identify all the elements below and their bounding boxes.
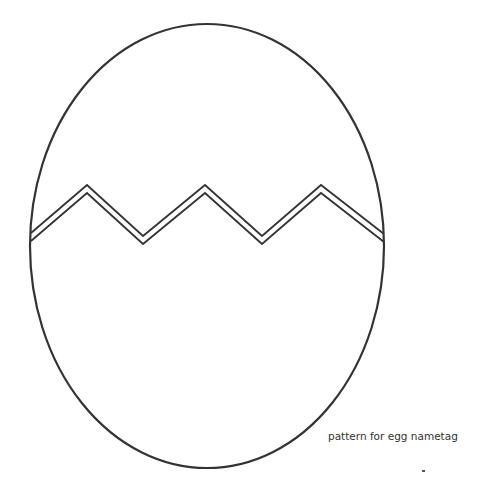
stray-speck-mark [422, 470, 425, 472]
egg-outline [30, 24, 384, 468]
egg-pattern-diagram [0, 0, 480, 497]
pattern-caption: pattern for egg nametag [328, 430, 458, 442]
crack-zigzag-upper-line [31, 185, 384, 236]
crack-zigzag-lower-line [31, 193, 384, 244]
